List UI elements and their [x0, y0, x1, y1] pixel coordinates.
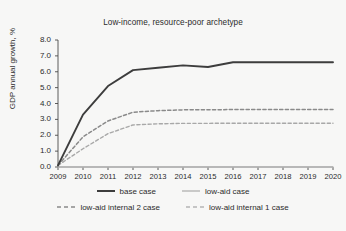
legend-item[interactable]: base case: [97, 187, 156, 196]
legend-line-swatch: [57, 203, 75, 211]
axes: [55, 40, 333, 170]
chart-figure: Low-income, resource-poor archetype GDP …: [0, 0, 346, 231]
chart-legend: base caselow-aid caselow-aid internal 2 …: [0, 183, 346, 215]
y-tick-label: 4.0: [29, 99, 51, 108]
y-tick-label: 0.0: [29, 162, 51, 171]
legend-label: low-aid internal 1 case: [209, 203, 289, 212]
legend-item[interactable]: low-aid internal 2 case: [57, 203, 160, 212]
legend-line-swatch: [186, 203, 204, 211]
y-tick-label: 6.0: [29, 67, 51, 76]
y-tick-label: 8.0: [29, 35, 51, 44]
x-tick-label: 2020: [318, 172, 346, 181]
series-line: [58, 110, 333, 166]
legend-line-swatch: [97, 187, 115, 195]
y-tick-label: 3.0: [29, 114, 51, 123]
y-tick-label: 1.0: [29, 146, 51, 155]
legend-line-swatch: [182, 187, 200, 195]
legend-label: low-aid internal 2 case: [80, 203, 160, 212]
legend-label: base case: [120, 187, 156, 196]
data-series-group: [58, 62, 333, 167]
legend-row: base caselow-aid case: [0, 183, 346, 199]
y-tick-label: 7.0: [29, 51, 51, 60]
legend-item[interactable]: low-aid internal 1 case: [186, 203, 289, 212]
legend-item[interactable]: low-aid case: [182, 187, 249, 196]
legend-row: low-aid internal 2 caselow-aid internal …: [0, 199, 346, 215]
y-tick-label: 5.0: [29, 83, 51, 92]
series-line: [58, 123, 333, 165]
series-line: [58, 62, 333, 165]
y-tick-label: 2.0: [29, 130, 51, 139]
legend-label: low-aid case: [205, 187, 249, 196]
